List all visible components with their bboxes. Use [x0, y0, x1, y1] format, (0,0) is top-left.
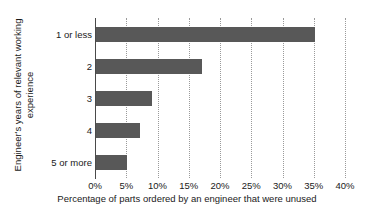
- x-axis-tick-labels: 0%5%10%15%20%25%30%35%40%: [95, 180, 345, 194]
- y-axis-tick-label: 1 or less: [30, 29, 92, 40]
- gridline: [345, 18, 346, 178]
- plot-area: [95, 18, 345, 178]
- bar: [96, 91, 152, 106]
- x-axis-title: Percentage of parts ordered by an engine…: [0, 193, 374, 205]
- bar: [96, 155, 127, 170]
- bar: [96, 123, 140, 138]
- y-axis-title-line-1: Engineer's years of relevant working: [12, 19, 24, 172]
- y-axis-tick-label: 2: [30, 61, 92, 72]
- horizontal-bar-chart: Engineer's years of relevant working exp…: [0, 0, 374, 212]
- y-axis-tick-label: 3: [30, 93, 92, 104]
- y-axis-tick-label: 4: [30, 125, 92, 136]
- x-axis-tick-label: 40%: [325, 180, 365, 192]
- bar: [96, 27, 315, 42]
- bar-series: [96, 18, 345, 178]
- y-axis-tick-labels: 1 or less2345 or more: [30, 18, 92, 178]
- y-axis-tick-label: 5 or more: [30, 157, 92, 168]
- bar: [96, 59, 202, 74]
